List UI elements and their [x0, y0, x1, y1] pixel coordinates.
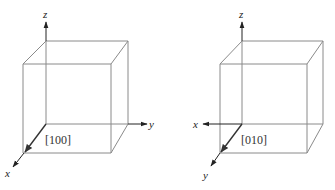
y-axis-label: y	[202, 169, 208, 181]
direction-label: [100]	[45, 133, 71, 147]
cube-edge	[111, 124, 128, 153]
x-axis-label: x	[4, 167, 10, 179]
unit-cube	[23, 41, 128, 153]
unit-cube	[220, 41, 323, 153]
cube-figure-100: z y x [100]	[4, 8, 154, 179]
cube-figure-010: z x y [010]	[192, 8, 323, 181]
y-axis-arrow	[211, 153, 220, 166]
y-axis-label: y	[148, 118, 154, 130]
x-axis-label: x	[192, 118, 198, 130]
cube-edge	[23, 41, 46, 64]
x-axis-arrow	[13, 153, 24, 167]
direction-vector-100	[25, 124, 46, 152]
cube-edge	[220, 41, 242, 64]
direction-vector-010	[221, 124, 242, 152]
z-axis-label: z	[42, 8, 48, 20]
direction-label: [010]	[241, 133, 267, 147]
cube-edge	[111, 41, 128, 64]
crystal-directions-diagram: z y x [100] z	[0, 0, 335, 190]
z-axis-label: z	[238, 8, 244, 20]
cube-edge	[307, 41, 323, 64]
cube-edge	[307, 124, 323, 153]
